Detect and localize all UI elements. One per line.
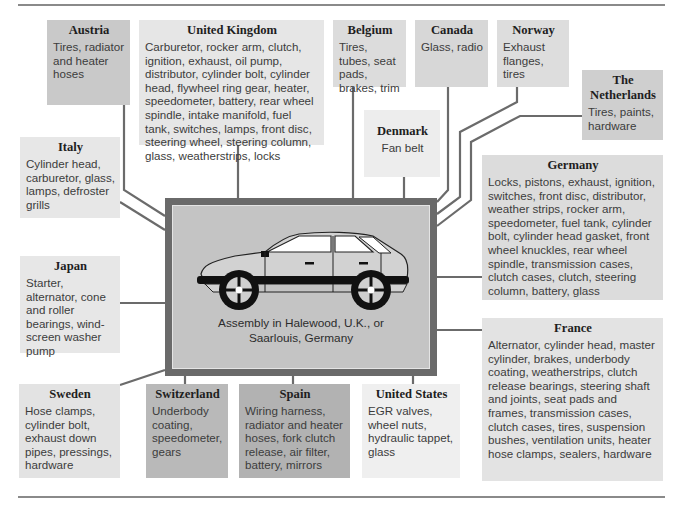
country-label: Germany: [488, 158, 658, 173]
supplier-canada: Canada Glass, radio: [415, 20, 488, 87]
supplier-sweden: Sweden Hose clamps, cylinder bolt, exhau…: [19, 384, 120, 478]
country-label: United States: [368, 387, 455, 402]
country-label: Italy: [26, 140, 115, 155]
parts-list: Tires, tubes, seat pads, brakes, trim: [339, 40, 401, 94]
supplier-netherlands: The Netherlands Tires, paints, hardware: [582, 70, 663, 140]
parts-list: Cylinder head, carburetor, glass, lamps,…: [26, 157, 115, 211]
country-label: France: [488, 321, 658, 336]
country-label: United Kingdom: [145, 23, 319, 38]
parts-list: Underbody coating, speedometer, gears: [152, 404, 223, 458]
parts-list: Tires, radiator and heater hoses: [53, 40, 125, 81]
caption-line-2: Saarlouis, Germany: [173, 331, 429, 346]
supplier-norway: Norway Exhaust flanges, tires: [497, 20, 569, 87]
supplier-austria: Austria Tires, radiator and heater hoses: [47, 20, 130, 105]
country-label: The Netherlands: [588, 73, 658, 103]
parts-list: Tires, paints, hardware: [588, 105, 658, 132]
parts-list: Hose clamps, cylinder bolt, exhaust down…: [25, 404, 115, 472]
country-label: Switzerland: [152, 387, 223, 402]
caption-line-1: Assembly in Halewood, U.K., or: [173, 316, 429, 331]
country-label: Japan: [26, 259, 115, 274]
car-icon: [195, 226, 411, 318]
supplier-france: France Alternator, cylinder head, master…: [482, 318, 663, 481]
parts-list: Locks, pistons, exhaust, ignition, switc…: [488, 175, 658, 297]
supplier-united-kingdom: United Kingdom Carburetor, rocker arm, c…: [139, 20, 324, 145]
assembly-panel: Assembly in Halewood, U.K., or Saarlouis…: [172, 205, 430, 369]
country-label: Denmark: [370, 124, 435, 139]
country-label: Austria: [53, 23, 125, 38]
parts-list: Exhaust flanges, tires: [503, 40, 564, 81]
country-label: Spain: [245, 387, 345, 402]
parts-list: Carburetor, rocker arm, clutch, ignition…: [145, 40, 319, 162]
parts-list: Starter, alternator, cone and roller bea…: [26, 276, 115, 358]
assembly-center-box: Assembly in Halewood, U.K., or Saarlouis…: [165, 198, 437, 376]
parts-list: Glass, radio: [421, 40, 483, 54]
supplier-spain: Spain Wiring harness, radiator and heate…: [239, 384, 350, 478]
supplier-belgium: Belgium Tires, tubes, seat pads, brakes,…: [333, 20, 406, 87]
supplier-italy: Italy Cylinder head, carburetor, glass, …: [20, 137, 120, 218]
parts-list: Wiring harness, radiator and heater hose…: [245, 404, 345, 472]
parts-list: Alternator, cylinder head, master cylind…: [488, 338, 658, 460]
parts-list: EGR valves, wheel nuts, hydraulic tappet…: [368, 404, 455, 458]
country-label: Canada: [421, 23, 483, 38]
supplier-japan: Japan Starter, alternator, cone and roll…: [20, 256, 120, 353]
country-label: Belgium: [339, 23, 401, 38]
supplier-germany: Germany Locks, pistons, exhaust, ignitio…: [482, 155, 663, 300]
country-label: Sweden: [25, 387, 115, 402]
supplier-united-states: United States EGR valves, wheel nuts, hy…: [362, 384, 460, 478]
supplier-denmark: Denmark Fan belt: [364, 110, 440, 177]
supplier-switzerland: Switzerland Underbody coating, speedomet…: [146, 384, 228, 478]
parts-list: Fan belt: [370, 141, 435, 155]
country-label: Norway: [503, 23, 564, 38]
assembly-caption: Assembly in Halewood, U.K., or Saarlouis…: [173, 316, 429, 346]
